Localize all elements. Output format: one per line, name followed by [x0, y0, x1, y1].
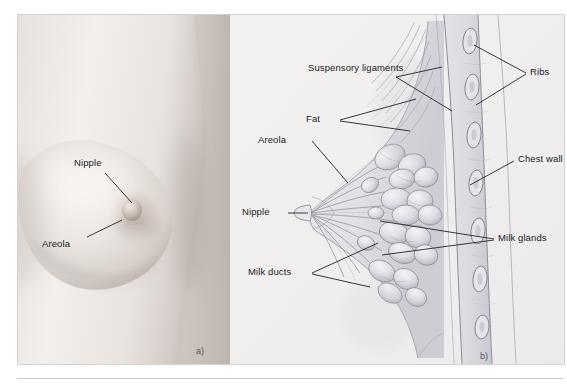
figure-page: Nipple Areola a)	[0, 0, 567, 390]
panel-b-tag: b)	[480, 352, 488, 361]
label-areola-b: Areola	[258, 135, 286, 145]
illustration-plate: Nipple Areola a)	[17, 14, 565, 365]
panel-a-leader-lines	[18, 15, 230, 364]
panel-a-tag: a)	[196, 347, 204, 356]
label-milk-glands: Milk glands	[498, 233, 547, 243]
panel-b: Suspensory ligaments Fat Areola Nipple M…	[230, 15, 564, 364]
label-chest-wall: Chest wall	[518, 154, 563, 164]
bottom-rule	[17, 378, 563, 379]
panel-a: Nipple Areola a)	[18, 15, 230, 364]
label-nipple-a: Nipple	[74, 158, 102, 168]
label-areola-a: Areola	[42, 239, 70, 249]
label-ribs: Ribs	[530, 67, 549, 77]
label-nipple-b: Nipple	[242, 207, 270, 217]
label-milk-ducts: Milk ducts	[248, 267, 291, 277]
label-suspensory-ligaments: Suspensory ligaments	[308, 63, 403, 73]
label-fat: Fat	[306, 114, 320, 124]
